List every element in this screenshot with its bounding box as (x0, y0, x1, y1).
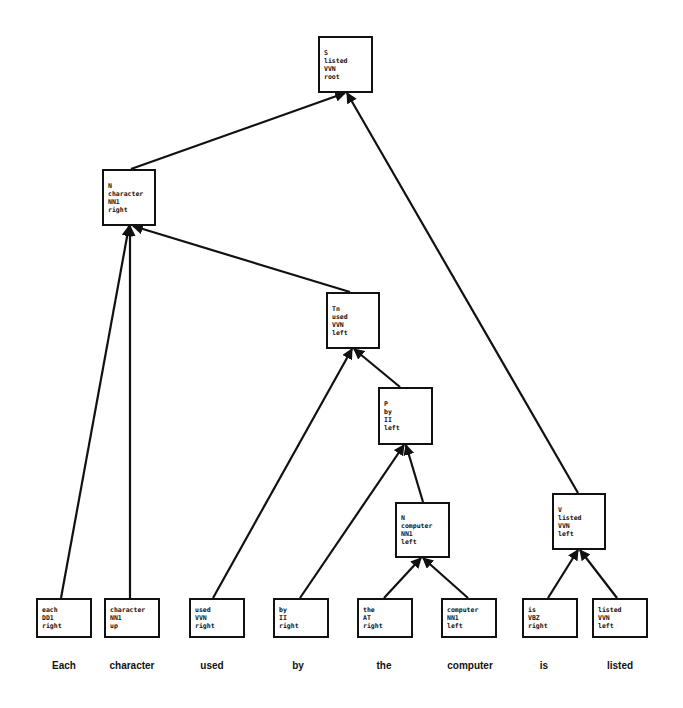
sentence-word: listed (607, 660, 633, 671)
node-label-line: listed (558, 514, 600, 522)
node-label-line: S (324, 49, 367, 57)
tree-node-leaf-character: characterNN1up (104, 598, 160, 638)
tree-node-leaf-the: theATright (357, 598, 413, 638)
tree-node-leaf-used: usedVVNright (189, 598, 245, 638)
node-label-line: left (332, 329, 374, 337)
node-label-line: AT (363, 614, 407, 622)
edge-n_computer-to-p_by (406, 445, 423, 502)
node-label-line: P (384, 400, 427, 408)
sentence-word: character (109, 660, 154, 671)
node-label-line: NN1 (401, 530, 444, 538)
edge-leaf_computer-to-n_computer (423, 558, 468, 598)
node-label-line: right (528, 622, 572, 630)
sentence-word: is (540, 660, 548, 671)
node-label-line: by (384, 408, 427, 416)
node-label-line: N (401, 514, 444, 522)
tree-node-leaf-listed: listedVVNleft (592, 598, 648, 638)
node-label-line: II (384, 416, 427, 424)
sentence-word: used (200, 660, 223, 671)
node-label-line: computer (447, 606, 491, 614)
node-label-line: computer (401, 522, 444, 530)
tree-node-leaf-computer: computerNN1left (441, 598, 497, 638)
node-label-line: left (447, 622, 491, 630)
node-label-line: VVN (195, 614, 239, 622)
edge-leaf_each-to-n_character (61, 226, 129, 598)
edge-p_by-to-tn_used (354, 349, 400, 387)
edge-leaf_used-to-tn_used (213, 349, 352, 598)
sentence-word: the (377, 660, 392, 671)
node-label-line: used (332, 313, 374, 321)
sentence-word: by (292, 660, 304, 671)
node-label-line: VBZ (528, 614, 572, 622)
tree-node-leaf-by: byIIright (273, 598, 329, 638)
node-label-line: listed (598, 606, 642, 614)
edge-leaf_the-to-n_computer (384, 558, 421, 598)
node-label-line: left (401, 538, 444, 546)
node-label-line: V (558, 506, 600, 514)
tree-node-tn-used: TnusedVVNleft (326, 292, 380, 349)
tree-node-p-by: PbyIIleft (378, 387, 433, 445)
node-label-line: right (279, 622, 323, 630)
node-label-line: right (363, 622, 407, 630)
node-label-line: by (279, 606, 323, 614)
tree-node-v-listed: VlistedVVNleft (552, 493, 606, 550)
node-label-line: VVN (324, 65, 367, 73)
node-label-line: left (384, 424, 427, 432)
node-label-line: NN1 (447, 614, 491, 622)
sentence-word: computer (447, 660, 493, 671)
tree-node-leaf-is: isVBZright (522, 598, 578, 638)
node-label-line: the (363, 606, 407, 614)
edge-n_character-to-root (131, 93, 345, 169)
node-label-line: used (195, 606, 239, 614)
node-label-line: NN1 (110, 614, 154, 622)
node-label-line: right (195, 622, 239, 630)
node-label-line: Tn (332, 305, 374, 313)
node-label-line: up (110, 622, 154, 630)
sentence-word: Each (52, 660, 76, 671)
node-label-line: is (528, 606, 572, 614)
node-label-line: NN1 (108, 198, 150, 206)
node-label-line: character (110, 606, 154, 614)
node-label-line: VVN (558, 522, 600, 530)
tree-node-n-computer: NcomputerNN1left (395, 502, 450, 558)
node-label-line: character (108, 190, 150, 198)
edge-leaf_listed-to-v_listed (580, 550, 617, 598)
node-label-line: N (108, 182, 150, 190)
dependency-tree-diagram: SlistedVVNrootNcharacterNN1rightTnusedVV… (0, 0, 683, 708)
edge-leaf_is-to-v_listed (548, 550, 578, 598)
edge-leaf_by-to-p_by (300, 445, 404, 598)
node-label-line: root (324, 73, 367, 81)
node-label-line: right (42, 622, 86, 630)
node-label-line: each (42, 606, 86, 614)
node-label-line: VVN (598, 614, 642, 622)
node-label-line: left (598, 622, 642, 630)
node-label-line: DD1 (42, 614, 86, 622)
tree-edges (0, 0, 683, 708)
edge-tn_used-to-n_character (133, 226, 350, 292)
tree-node-n-character: NcharacterNN1right (102, 169, 156, 226)
node-label-line: II (279, 614, 323, 622)
tree-node-leaf-each: eachDD1right (36, 598, 92, 638)
tree-node-root: SlistedVVNroot (318, 36, 373, 93)
node-label-line: right (108, 206, 150, 214)
node-label-line: listed (324, 57, 367, 65)
node-label-line: VVN (332, 321, 374, 329)
node-label-line: left (558, 530, 600, 538)
